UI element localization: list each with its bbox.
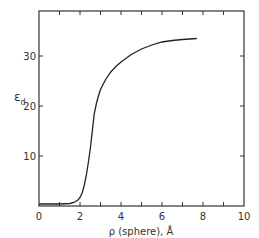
- plot-frame: [39, 11, 244, 206]
- x-axis-label: ρ (sphere), Å: [109, 225, 174, 237]
- y-axis-label: εd: [14, 90, 26, 107]
- tick-label: 10: [238, 211, 251, 222]
- tick-label: 0: [36, 211, 42, 222]
- tick-labels: 0246810102030: [23, 51, 250, 222]
- y-axis-label-sub: d: [21, 98, 26, 107]
- chart-figure: 0246810102030 εd ρ (sphere), Å: [0, 0, 259, 238]
- tick-label: 6: [159, 211, 165, 222]
- tick-label: 4: [118, 211, 124, 222]
- tick-label: 10: [23, 151, 36, 162]
- axis-ticks: [39, 11, 244, 206]
- tick-label: 8: [200, 211, 206, 222]
- tick-label: 30: [23, 51, 36, 62]
- tick-label: 2: [77, 211, 83, 222]
- data-curve: [39, 39, 197, 205]
